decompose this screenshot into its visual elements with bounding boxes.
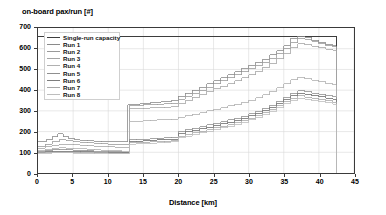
legend-item-6[interactable]: Run 6 xyxy=(45,77,119,84)
y-tick-label: 400 xyxy=(5,86,31,93)
x-tick-label: 30 xyxy=(237,178,261,185)
legend-item-0[interactable]: Single-run capacity xyxy=(45,34,119,41)
legend-item-7[interactable]: Run 7 xyxy=(45,84,119,91)
x-tick-label: 20 xyxy=(166,178,190,185)
legend-swatch-icon xyxy=(47,65,60,66)
legend-item-2[interactable]: Run 2 xyxy=(45,48,119,55)
x-tick-label: 5 xyxy=(60,178,84,185)
legend-swatch-icon xyxy=(47,80,60,81)
x-axis-title: Distance [km] xyxy=(0,198,386,207)
x-tick-mark xyxy=(37,174,38,177)
legend-swatch-icon xyxy=(47,87,60,88)
x-tick-mark xyxy=(108,174,109,177)
legend-label: Run 8 xyxy=(63,91,80,98)
x-tick-mark xyxy=(320,174,321,177)
legend-label: Run 2 xyxy=(63,48,80,55)
x-tick-mark xyxy=(178,174,179,177)
legend-label: Single-run capacity xyxy=(63,34,120,41)
legend-label: Run 6 xyxy=(63,77,80,84)
y-tick-label: 700 xyxy=(5,23,31,30)
x-tick-mark xyxy=(355,174,356,177)
x-tick-mark xyxy=(249,174,250,177)
legend-item-4[interactable]: Run 4 xyxy=(45,62,119,69)
legend[interactable]: Single-run capacityRun 1Run 2Run 3Run 4R… xyxy=(44,32,120,100)
legend-swatch-icon xyxy=(47,44,60,45)
y-tick-label: 300 xyxy=(5,107,31,114)
y-axis-title: on-board pax/run [#] xyxy=(22,7,93,16)
legend-label: Run 4 xyxy=(63,62,80,69)
series-7 xyxy=(38,96,336,173)
x-tick-mark xyxy=(72,174,73,177)
legend-item-1[interactable]: Run 1 xyxy=(45,41,119,48)
y-tick-label: 100 xyxy=(5,149,31,156)
legend-swatch-icon xyxy=(47,94,60,95)
x-tick-mark xyxy=(143,174,144,177)
legend-item-5[interactable]: Run 5 xyxy=(45,69,119,76)
y-tick-label: 600 xyxy=(5,44,31,51)
x-tick-mark xyxy=(214,174,215,177)
x-tick-label: 35 xyxy=(272,178,296,185)
x-tick-mark xyxy=(284,174,285,177)
legend-label: Run 1 xyxy=(63,41,80,48)
legend-label: Run 7 xyxy=(63,84,80,91)
legend-swatch-icon xyxy=(47,51,60,52)
x-tick-label: 40 xyxy=(308,178,332,185)
legend-label: Run 5 xyxy=(63,70,80,77)
x-tick-label: 25 xyxy=(202,178,226,185)
legend-item-8[interactable]: Run 8 xyxy=(45,91,119,98)
legend-item-3[interactable]: Run 3 xyxy=(45,55,119,62)
x-tick-label: 10 xyxy=(96,178,120,185)
legend-swatch-icon xyxy=(47,73,60,74)
x-tick-label: 45 xyxy=(343,178,367,185)
x-tick-label: 15 xyxy=(131,178,155,185)
legend-label: Run 3 xyxy=(63,55,80,62)
legend-swatch-icon xyxy=(47,58,60,59)
series-6 xyxy=(38,93,336,173)
x-tick-label: 0 xyxy=(25,178,49,185)
y-tick-label: 0 xyxy=(5,170,31,177)
y-tick-label: 200 xyxy=(5,128,31,135)
y-tick-label: 500 xyxy=(5,65,31,72)
chart-root: on-board pax/run [#] 0100200300400500600… xyxy=(0,0,386,215)
legend-swatch-icon xyxy=(47,37,60,38)
series-8 xyxy=(38,98,336,173)
